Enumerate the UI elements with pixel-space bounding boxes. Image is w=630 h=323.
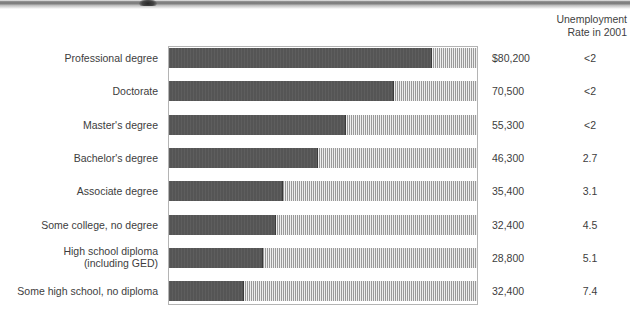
row-label-line2: (including GED) bbox=[84, 258, 158, 270]
bar-track bbox=[168, 215, 478, 235]
bar-track bbox=[168, 248, 478, 268]
bar-fill-earnings bbox=[169, 148, 318, 168]
bar-track bbox=[168, 81, 478, 101]
earnings-value: 28,800 bbox=[492, 248, 562, 268]
row-label: High school diploma(including GED) bbox=[0, 246, 158, 270]
table-row: Some college, no degree32,4004.5 bbox=[0, 215, 630, 235]
row-label: Some high school, no diploma bbox=[0, 281, 158, 301]
bar-track bbox=[168, 115, 478, 135]
unemployment-rate-value: <2 bbox=[567, 48, 613, 68]
row-label: Bachelor's degree bbox=[0, 148, 158, 168]
row-label: Some college, no degree bbox=[0, 215, 158, 235]
unemployment-column-header-line2: Rate in 2001 bbox=[527, 26, 627, 39]
table-row: High school diploma(including GED)28,800… bbox=[0, 248, 630, 268]
unemployment-rate-value: 7.4 bbox=[567, 281, 613, 301]
unemployment-rate-value: 3.1 bbox=[567, 181, 613, 201]
table-row: Some high school, no diploma32,4007.4 bbox=[0, 281, 630, 301]
table-row: Doctorate70,500<2 bbox=[0, 81, 630, 101]
table-row: Associate degree35,4003.1 bbox=[0, 181, 630, 201]
table-row: Bachelor's degree46,3002.7 bbox=[0, 148, 630, 168]
bar-fill-earnings bbox=[169, 215, 276, 235]
earnings-value: 70,500 bbox=[492, 81, 562, 101]
scan-artifact-shadow bbox=[0, 6, 630, 9]
table-row: Professional degree$80,200<2 bbox=[0, 48, 630, 68]
bar-track bbox=[168, 148, 478, 168]
earnings-value: 32,400 bbox=[492, 281, 562, 301]
row-label: Master's degree bbox=[0, 115, 158, 135]
table-row: Master's degree55,300<2 bbox=[0, 115, 630, 135]
unemployment-rate-value: 2.7 bbox=[567, 148, 613, 168]
row-label: Professional degree bbox=[0, 48, 158, 68]
bar-track bbox=[168, 48, 478, 68]
bar-fill-earnings bbox=[169, 48, 432, 68]
bar-fill-earnings bbox=[169, 248, 263, 268]
unemployment-rate-value: 5.1 bbox=[567, 248, 613, 268]
unemployment-column-header-line1: Unemployment bbox=[527, 13, 627, 26]
bar-fill-earnings bbox=[169, 281, 244, 301]
earnings-value: 55,300 bbox=[492, 115, 562, 135]
row-label: Doctorate bbox=[0, 81, 158, 101]
row-label: Associate degree bbox=[0, 181, 158, 201]
bar-track bbox=[168, 281, 478, 301]
bar-fill-earnings bbox=[169, 181, 283, 201]
unemployment-column-header: Unemployment Rate in 2001 bbox=[527, 13, 627, 39]
bar-fill-earnings bbox=[169, 115, 346, 135]
earnings-value: 35,400 bbox=[492, 181, 562, 201]
unemployment-rate-value: 4.5 bbox=[567, 215, 613, 235]
earnings-value: 46,300 bbox=[492, 148, 562, 168]
earnings-value: $80,200 bbox=[492, 48, 562, 68]
bar-track bbox=[168, 181, 478, 201]
unemployment-rate-value: <2 bbox=[567, 81, 613, 101]
bar-fill-earnings bbox=[169, 81, 394, 101]
earnings-value: 32,400 bbox=[492, 215, 562, 235]
unemployment-rate-value: <2 bbox=[567, 115, 613, 135]
